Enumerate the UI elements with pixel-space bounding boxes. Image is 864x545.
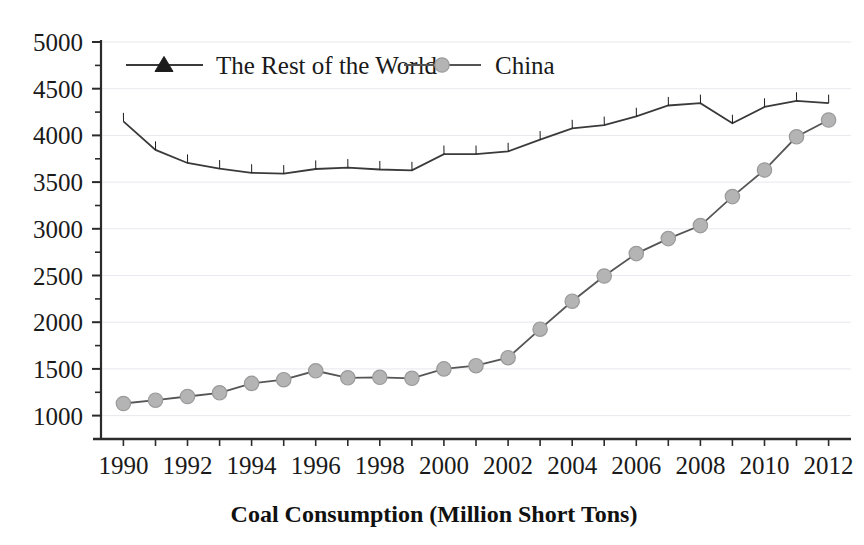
data-point-marker [693, 218, 707, 232]
series-line [123, 101, 828, 174]
data-point-marker [373, 370, 387, 384]
data-point-marker [405, 371, 419, 385]
legend-marker-china [435, 58, 449, 72]
y-tick-label: 4000 [33, 122, 83, 149]
x-tick-labels: 1990199219941996199820002002200420062008… [98, 452, 853, 479]
data-point-marker [789, 130, 803, 144]
data-point-marker [244, 376, 258, 390]
data-point-marker [437, 362, 451, 376]
x-tick-label: 2008 [675, 452, 725, 479]
data-point-marker [661, 231, 675, 245]
x-tick-label: 2010 [740, 452, 790, 479]
data-point-marker [725, 189, 739, 203]
y-tick-label: 1500 [33, 356, 83, 383]
data-point-marker [148, 393, 162, 407]
data-point-marker [277, 373, 291, 387]
x-tick-label: 2004 [547, 452, 598, 479]
data-point-marker [533, 322, 547, 336]
data-point-marker [212, 386, 226, 400]
data-point-marker [597, 269, 611, 283]
y-tick-label: 2500 [33, 263, 83, 290]
y-tick-label: 3000 [33, 216, 83, 243]
data-point-marker [180, 389, 194, 403]
x-tick-label: 2006 [611, 452, 661, 479]
data-point-marker [565, 294, 579, 308]
axes [93, 40, 851, 439]
chart-canvas: 100015002000250030003500400045005000 199… [0, 0, 864, 545]
x-tick-label: 1996 [291, 452, 341, 479]
coal-consumption-chart: 100015002000250030003500400045005000 199… [0, 0, 864, 545]
y-tick-label: 4500 [33, 76, 83, 103]
y-tick-label: 1000 [33, 403, 83, 430]
data-point-marker [341, 371, 355, 385]
y-tick-marks [92, 42, 101, 416]
x-tick-label: 2000 [419, 452, 469, 479]
series-rest-of-world [123, 92, 828, 174]
x-axis-title: Coal Consumption (Million Short Tons) [231, 501, 638, 527]
y-tick-label: 3500 [33, 169, 83, 196]
data-point-marker [501, 351, 515, 365]
x-tick-label: 1992 [163, 452, 213, 479]
x-tick-label: 1994 [227, 452, 278, 479]
legend: The Rest of the WorldChina [126, 52, 555, 79]
x-tick-label: 1998 [355, 452, 405, 479]
data-point-marker [469, 359, 483, 373]
data-point-marker [821, 113, 835, 127]
data-point-marker [309, 364, 323, 378]
data-point-marker [629, 246, 643, 260]
data-point-marker [116, 396, 130, 410]
y-tick-label: 5000 [33, 29, 83, 56]
x-tick-label: 2012 [804, 452, 854, 479]
legend-label-china: China [495, 52, 555, 79]
series-china [116, 113, 836, 411]
data-point-marker [757, 163, 771, 177]
y-tick-label: 2000 [33, 309, 83, 336]
y-tick-labels: 100015002000250030003500400045005000 [33, 29, 83, 430]
x-tick-label: 1990 [98, 452, 148, 479]
x-tick-label: 2002 [483, 452, 533, 479]
